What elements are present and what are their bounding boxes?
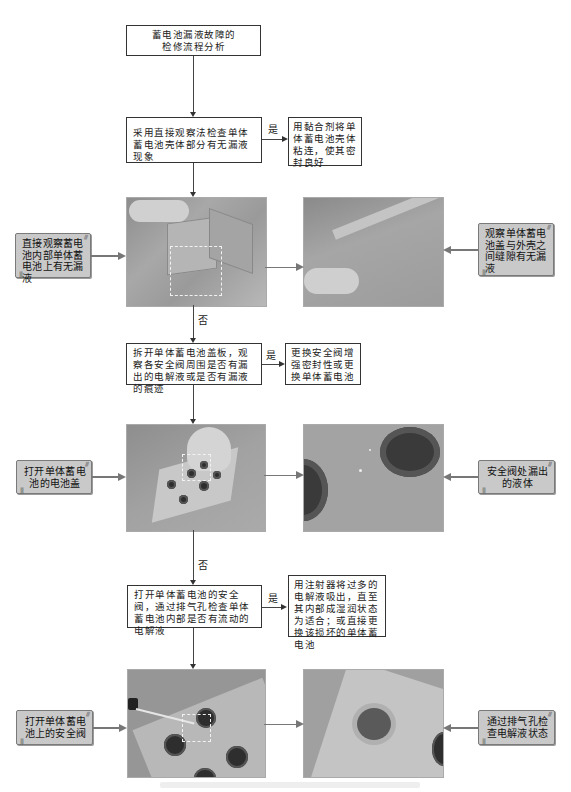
step3-right-note-text: 通过排气孔检查电解液状态 [487,716,549,739]
note-corner-mark: /// [84,234,87,240]
step3-yes-label: 是 [268,590,278,605]
arrow-left-icon [443,473,451,481]
step1-right-note: /// 观察单体蓄电池盖与外壳之间缝隙有无漏液 ||| [478,223,554,276]
arrow-left-icon [443,246,451,254]
connector-photo3-to-photo4 [264,475,297,476]
leak-droplet [359,469,362,472]
step2-right-note-text: 安全阀处漏出的液体 [487,466,549,489]
connector-step1-to-photo [193,163,194,193]
vent-hole [226,746,248,768]
connector-left-note2 [92,476,118,478]
photo-battery-cover-open [126,424,266,532]
highlight-dashed-box [170,246,222,296]
step1-right-note-text: 观察单体蓄电池盖与外壳之间缝隙有无漏液 [485,228,547,274]
arrow-right-icon [296,263,304,271]
step3-right-note: /// 通过排气孔检查电解液状态 ||| [478,710,555,745]
hand-shape [304,268,359,294]
note-corner-mark: ||| [482,738,485,744]
step1-check-box: 采用直接观察法检查单体蓄电池壳体部分有无漏液现象 [126,117,262,163]
note-corner-mark: /// [548,461,551,467]
leak-droplet [369,449,371,451]
connector-step3-yes [262,607,282,608]
note-corner-mark: ||| [482,487,485,493]
photo-battery-cell-inspection [126,197,267,307]
step1-no-label: 否 [198,312,208,327]
safety-valve [380,427,440,477]
step2-left-note-text: 打开单体蓄电池的电池盖 [24,466,86,489]
vent-hole [179,495,188,504]
arrow-right-icon [118,252,126,260]
connector-step2-yes [262,364,280,365]
connector-right-note3 [451,727,478,729]
step3-left-note: /// 打开单体蓄电池上的安全阀 ||| [16,710,93,745]
highlight-dashed-box [182,454,211,481]
battery-lid-edge [332,197,444,240]
arrow-left-icon [443,724,451,732]
highlight-dashed-box [182,714,211,742]
note-corner-mark: /// [547,224,550,230]
step1-check-text: 采用直接观察法检查单体蓄电池壳体部分有无漏液现象 [133,127,249,162]
step3-left-note-text: 打开单体蓄电池上的安全阀 [25,716,87,739]
connector-photo3-to-step3 [193,530,194,580]
arrow-right-icon [119,724,127,732]
connector-start-to-step1 [193,56,194,113]
connector-step1-yes [262,139,284,140]
connector-photo1-to-photo2 [265,267,297,268]
note-corner-mark: ||| [19,271,22,277]
vent-hole [167,480,176,489]
flow-start-line1: 蓄电池漏液故障的 [133,29,254,41]
arrow-right-icon [281,604,287,610]
step3-check-box: 打开单体蓄电池的安全阀，通过排气孔检查单体蓄电池内部是否有流动的电解液 [127,585,262,628]
connector-step3-to-photo [193,628,194,665]
step2-right-note: /// 安全阀处漏出的液体 ||| [478,460,555,494]
step1-yes-label: 是 [268,121,278,136]
connector-photo1-to-step2 [193,305,194,338]
note-corner-mark: /// [86,711,89,717]
step3-check-text: 打开单体蓄电池的安全阀，通过排气孔检查单体蓄电池内部是否有流动的电解液 [134,589,250,636]
photo-vent-hole-closeup [303,669,444,778]
step2-left-note: /// 打开单体蓄电池的电池盖 ||| [16,460,92,494]
connector-photo5-to-photo6 [264,724,297,725]
connector-left-note3 [93,727,119,729]
connector-step2-to-photo [193,385,194,420]
connector-right-note1 [451,249,478,251]
vent-hole [213,471,221,479]
step2-no-label: 否 [198,557,208,572]
photo-battery-lid-seam [303,197,444,307]
figure-caption-blurred [160,782,420,788]
arrow-right-icon [296,720,304,728]
step1-yes-action-box: 用黏合剂将单体蓄电池壳体粘连，使其密封良好 [288,117,362,166]
photo-screwdriver-open-valve [127,669,266,778]
hand-shape [129,200,189,222]
note-corner-mark: ||| [20,738,23,744]
note-corner-mark: /// [548,711,551,717]
connector-right-note2 [451,476,478,478]
step2-yes-action-text: 更换安全阀增强密封性或更换单体蓄电池 [291,347,354,382]
photo-safety-valve-leak [303,424,444,532]
step1-left-note-text: 直接观察蓄电池内部单体蓄电池上有无漏液 [22,238,84,284]
vent-hole-open [357,708,391,740]
note-corner-mark: ||| [482,269,485,275]
step2-yes-action-box: 更换安全阀增强密封性或更换单体蓄电池 [285,343,361,385]
step1-left-note: /// 直接观察蓄电池内部单体蓄电池上有无漏液 ||| [15,233,91,278]
arrow-right-icon [296,471,304,479]
flow-start-box: 蓄电池漏液故障的 检修流程分析 [126,25,261,56]
arrow-right-icon [118,473,126,481]
step2-check-box: 拆开单体蓄电池盖板，观察各安全阀周围是否有漏出的电解液或是否有漏液的痕迹 [126,343,262,385]
connector-left-note1 [91,255,118,257]
note-corner-mark: /// [85,461,88,467]
step3-yes-action-box: 用注射器将过多的电解液吸出，直至其内部成湿润状态为适合；或直接更换该损坏的单体蓄… [288,575,386,637]
step2-yes-label: 是 [266,347,276,362]
safety-valve [303,459,328,521]
flow-start-line2: 检修流程分析 [133,41,254,53]
step3-yes-action-text: 用注射器将过多的电解液吸出，直至其内部成湿润状态为适合；或直接更换该损坏的单体蓄… [294,579,378,650]
step1-yes-action-text: 用黏合剂将单体蓄电池壳体粘连，使其密封良好 [293,121,356,168]
step2-check-text: 拆开单体蓄电池盖板，观察各安全阀周围是否有漏出的电解液或是否有漏液的痕迹 [133,347,249,394]
vent-hole [199,481,209,491]
note-corner-mark: ||| [20,487,23,493]
